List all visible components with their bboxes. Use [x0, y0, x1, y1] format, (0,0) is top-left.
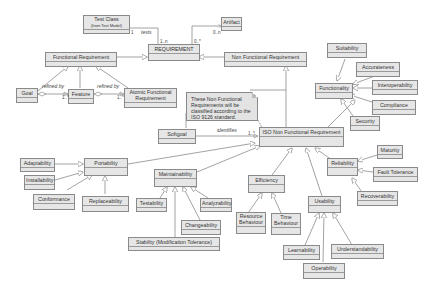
class-iso-non-functional-requirement[interactable]: ISO Non Functional Requirement [259, 127, 344, 147]
attributes-compartment [284, 254, 319, 257]
class-stability-modification-tolerance[interactable]: Stability (Modification Tolerance) [128, 237, 220, 251]
attributes-compartment [17, 97, 37, 100]
mult-requirement-tests: 1..n [160, 39, 168, 44]
class-reliability[interactable]: Reliability [327, 158, 358, 176]
class-accurateness[interactable]: Accurateness [356, 62, 400, 77]
class-name: Maintainability [155, 170, 196, 178]
class-changeability[interactable]: Changeability [181, 220, 221, 235]
class-installability[interactable]: Installability [24, 175, 55, 190]
attributes-compartment [83, 205, 128, 208]
class-name: Suitability [328, 44, 366, 52]
attributes-compartment [25, 184, 54, 187]
class-name: Usability [309, 197, 340, 205]
class-requirement[interactable]: REQUIREMENT [148, 44, 200, 61]
mult-iso-identifies: 1..* [248, 131, 255, 136]
label-tests: tests [141, 29, 152, 35]
attributes-compartment [328, 52, 366, 55]
class-softgoal[interactable]: Softgoal [158, 129, 196, 144]
mult-test-class: 1 [131, 30, 134, 35]
class-adaptability[interactable]: Adaptability [20, 158, 55, 172]
class-testability[interactable]: Testability [136, 198, 167, 212]
attributes-compartment [358, 200, 397, 203]
attributes-compartment [155, 178, 196, 181]
class-usability[interactable]: Usability [308, 196, 341, 213]
class-portability[interactable]: Portability [84, 158, 128, 176]
mult-requirement-artifact: 0..* [194, 39, 201, 44]
class-artifact[interactable]: Artifact [221, 17, 242, 31]
class-goal[interactable]: Goal [16, 88, 38, 103]
label-identifies: identifies [217, 127, 237, 133]
class-test-class[interactable]: Test Class (from Test Model) [83, 15, 130, 34]
attributes-compartment [225, 61, 306, 64]
class-name-line2: Behaviour [238, 220, 264, 226]
attributes-compartment [328, 167, 357, 170]
class-security[interactable]: Security [350, 116, 380, 131]
attributes-compartment [222, 26, 241, 29]
class-feature[interactable]: Feature [68, 89, 94, 104]
class-operability[interactable]: Operability [303, 263, 345, 279]
class-recoverability[interactable]: Recoverability [357, 191, 398, 206]
class-name: Understandability [332, 245, 383, 253]
class-name: Artifact [222, 18, 241, 26]
class-non-functional-requirement[interactable]: Non Functional Requirement [224, 52, 307, 67]
class-understandability[interactable]: Understandability [331, 244, 384, 259]
class-maintainability[interactable]: Maintainability [154, 169, 197, 187]
class-learnability[interactable]: Learnability [283, 245, 320, 260]
class-conformance[interactable]: Conformance [33, 194, 75, 210]
note-line-4: ISO 9126 standard. [191, 114, 253, 120]
class-name: Installability [25, 176, 54, 184]
class-name: Stability (Modification Tolerance) [129, 238, 219, 246]
class-fault-tolerance[interactable]: Fault Tolerance [373, 167, 418, 182]
class-time-behaviour[interactable]: Time Behaviour [271, 213, 301, 235]
iso-classification-note: These Non Functional Requirements will b… [186, 92, 258, 121]
attributes-compartment [149, 53, 199, 56]
class-name: Accurateness [357, 63, 399, 71]
class-name: Reliability [328, 159, 357, 167]
class-name: Testability [137, 199, 166, 207]
class-atomic-functional-requirement[interactable]: Atomic Functional Requirement [124, 88, 177, 108]
label-refined-by-goal: refined by [42, 83, 64, 89]
attributes-compartment [272, 227, 300, 230]
class-resource-behaviour[interactable]: Resource Behaviour [236, 212, 266, 234]
attributes-compartment [129, 246, 219, 249]
class-efficiency[interactable]: Efficiency [248, 175, 285, 193]
class-name: Efficiency [249, 176, 284, 184]
class-name: Learnability [284, 246, 319, 254]
class-interoperability[interactable]: Interoperability [372, 80, 418, 95]
class-name: Functionality [316, 84, 352, 92]
class-name: Recoverability [358, 192, 397, 200]
class-name: Interoperability [373, 81, 417, 89]
attributes-compartment [316, 92, 352, 95]
attributes-compartment [69, 98, 93, 101]
attributes-compartment [373, 109, 415, 112]
class-name: Security [351, 117, 379, 125]
class-name-line2: Requirement [126, 96, 175, 102]
class-name: Fault Tolerance [374, 168, 417, 176]
class-name: Operability [304, 264, 344, 272]
class-functional-requirement[interactable]: Functional Requirement [45, 52, 117, 67]
attributes-compartment [309, 205, 340, 208]
class-suitability[interactable]: Suitability [327, 43, 367, 58]
attributes-compartment [34, 203, 74, 206]
class-name: Conformance [34, 195, 74, 203]
attributes-compartment [304, 272, 344, 275]
attributes-compartment [159, 138, 195, 141]
class-analyzability[interactable]: Analyzability [200, 198, 232, 212]
uml-class-diagram: Test Class (from Test Model) Artifact RE… [0, 0, 436, 295]
attributes-compartment [125, 102, 176, 105]
class-replaceability[interactable]: Replaceability [82, 196, 129, 212]
mult-atomic-feature: 1..* [117, 95, 124, 100]
class-package: (from Test Model) [85, 23, 128, 29]
label-refined-by-feature: refined by [97, 83, 119, 89]
class-maturity[interactable]: Maturity [377, 145, 403, 159]
attributes-compartment [332, 253, 383, 256]
class-name: Functional Requirement [46, 53, 116, 61]
class-compliance[interactable]: Compliance [372, 100, 416, 115]
attributes-compartment [378, 154, 402, 157]
attributes-compartment [237, 226, 265, 229]
class-name: REQUIREMENT [149, 45, 199, 53]
attributes-compartment [46, 61, 116, 64]
class-functionality[interactable]: Functionality [315, 83, 353, 99]
class-name: Feature [69, 90, 93, 98]
class-name: Maturity [378, 146, 402, 154]
